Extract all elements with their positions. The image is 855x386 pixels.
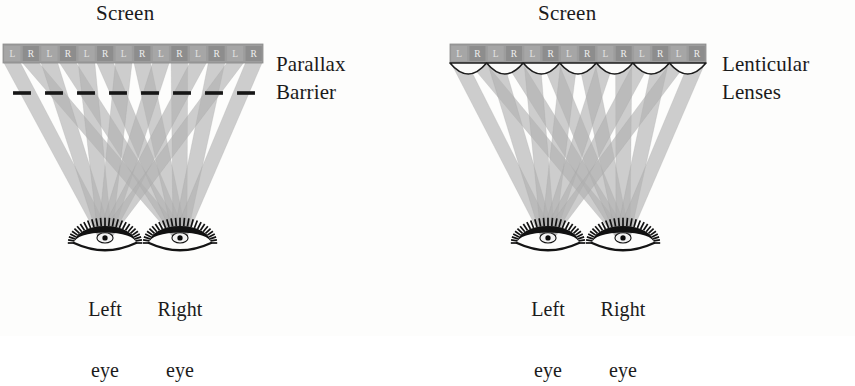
eyelash — [588, 234, 594, 237]
parallax-barrier-line — [13, 91, 255, 95]
eyelash — [134, 234, 140, 237]
eyelash — [619, 218, 620, 226]
eyelash — [566, 222, 570, 229]
eyelash — [654, 240, 660, 241]
eyelash — [70, 234, 76, 237]
eye-label-left-parallax-line1: Left — [70, 299, 140, 319]
eyelash — [201, 224, 205, 230]
eyelash — [527, 222, 531, 229]
eye-left-lenticular — [511, 218, 585, 251]
pixel-left-cell-label: L — [232, 49, 238, 59]
eyelash — [209, 234, 215, 237]
lenticular-lenses-label-line1: Lenticular — [722, 54, 809, 75]
eyelash — [68, 240, 74, 241]
eyelash — [109, 218, 110, 226]
pupil — [545, 235, 550, 240]
eye-label-right-lenticular-line1: Right — [588, 299, 658, 319]
eyelash — [126, 224, 130, 230]
eyelash — [101, 218, 102, 226]
eyelash — [198, 222, 202, 229]
pixel-right-cell-label: L — [529, 49, 535, 59]
eye-left-parallax — [68, 218, 142, 251]
eyelash — [513, 234, 519, 237]
eyelash — [211, 240, 217, 241]
pixel-right-cell-label: L — [639, 49, 645, 59]
diagram-parallax-barrier: LRLRLRLRLRLRLR — [3, 44, 263, 250]
pixel-left-cell-label: L — [47, 49, 53, 59]
eyelash — [512, 237, 518, 239]
pixel-right-cell-label: L — [456, 49, 462, 59]
eyelash — [598, 224, 602, 230]
eyelash — [194, 221, 197, 228]
lower-eyelid — [149, 243, 211, 250]
diagram-lenticular-lenses: LRLRLRLRLRLRLR — [450, 44, 706, 250]
barrier-dash — [205, 91, 223, 95]
eye-label-right-lenticular-line2: eye — [588, 360, 658, 380]
pixel-right-cell-label: L — [493, 49, 499, 59]
pupil — [620, 235, 625, 240]
pixel-left-cell-label: R — [102, 49, 109, 59]
eye-label-right-parallax-line2: eye — [145, 360, 215, 380]
lower-eyelid — [592, 243, 654, 250]
screen-strip-left: LRLRLRLRLRLRLR — [3, 44, 263, 63]
barrier-dash — [77, 91, 95, 95]
eyelash — [135, 237, 141, 239]
eyelash — [569, 224, 573, 230]
eye-label-right-lenticular: Right eye — [588, 258, 658, 386]
screen-strip-right: LRLRLRLRLRLRLR — [450, 44, 706, 63]
eyelash — [145, 234, 151, 237]
eye-label-left-lenticular-line1: Left — [513, 299, 583, 319]
eyelash — [136, 240, 142, 241]
pixel-right-cell-label: R — [584, 49, 591, 59]
eye-right-parallax — [143, 218, 217, 251]
eyelash — [641, 222, 645, 229]
eyelash — [644, 224, 648, 230]
barrier-dash — [109, 91, 127, 95]
light-beams-right — [451, 63, 705, 237]
pupil — [177, 235, 182, 240]
pixel-left-cell-label: R — [213, 49, 220, 59]
pixel-left-cell-label: L — [195, 49, 201, 59]
barrier-dash — [173, 91, 191, 95]
eyelash — [143, 240, 149, 241]
pixel-right-cell-label: L — [676, 49, 682, 59]
pupil — [102, 235, 107, 240]
barrier-dash — [45, 91, 63, 95]
lower-eyelid — [74, 243, 136, 250]
eyelash — [123, 222, 127, 229]
eyelash — [155, 224, 159, 230]
eyelash — [84, 222, 88, 229]
eyelash — [184, 218, 185, 226]
eyelash — [586, 240, 592, 241]
pixel-right-cell-label: R — [474, 49, 481, 59]
pixel-left-cell-label: R — [251, 49, 258, 59]
pixel-right-cell-label: L — [603, 49, 609, 59]
eyelash — [523, 224, 527, 230]
parallax-barrier-label-line2: Barrier — [276, 82, 336, 103]
eyelash — [652, 234, 658, 237]
eyelash — [579, 240, 585, 241]
eyelash — [627, 218, 628, 226]
light-beams-left — [4, 63, 262, 237]
eye-label-left-lenticular: Left eye — [513, 258, 583, 386]
pixel-left-cell-label: L — [84, 49, 90, 59]
pixel-right-cell-label: R — [511, 49, 518, 59]
screen-title-left: Screen — [96, 3, 154, 24]
barrier-dash — [237, 91, 255, 95]
eyelash — [544, 218, 545, 226]
pixel-right-cell-label: R — [547, 49, 554, 59]
eyelash — [511, 240, 517, 241]
pixel-left-cell-label: R — [65, 49, 72, 59]
eye-right-lenticular — [586, 218, 660, 251]
pixel-left-cell-label: L — [121, 49, 127, 59]
pixel-right-cell-label: R — [621, 49, 628, 59]
eye-label-right-parallax-line1: Right — [145, 299, 215, 319]
eyelash — [587, 237, 593, 239]
screen-title-right: Screen — [538, 3, 596, 24]
lenticular-lenses-label-line2: Lenses — [722, 82, 781, 103]
eye-label-right-parallax: Right eye — [145, 258, 215, 386]
barrier-dash — [13, 91, 31, 95]
eyelash — [69, 237, 75, 239]
pixel-left-cell-label: L — [158, 49, 164, 59]
